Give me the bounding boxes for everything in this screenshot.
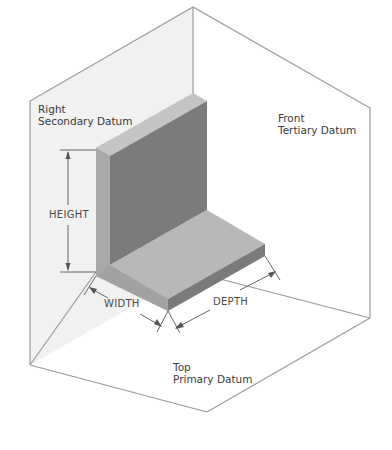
right-plane-label: Right Secondary Datum (38, 103, 132, 127)
front-plane-label: Front Tertiary Datum (278, 112, 356, 136)
datum-diagram: Right Secondary Datum Front Tertiary Dat… (0, 0, 392, 450)
top-plane-title: Top (173, 361, 252, 373)
front-plane-subtitle: Tertiary Datum (278, 124, 356, 136)
front-plane-title: Front (278, 112, 356, 124)
height-label: HEIGHT (49, 209, 89, 220)
right-plane-title: Right (38, 103, 132, 115)
depth-label: DEPTH (213, 296, 248, 307)
right-plane-subtitle: Secondary Datum (38, 115, 132, 127)
width-label: WIDTH (104, 298, 140, 309)
top-plane-subtitle: Primary Datum (173, 373, 252, 385)
top-plane-label: Top Primary Datum (173, 361, 252, 385)
